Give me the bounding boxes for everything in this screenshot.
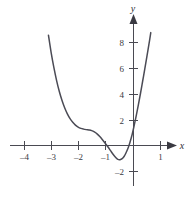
polynomial-curve (48, 33, 150, 160)
x-ticklabel-neg1: –1 (100, 152, 110, 162)
y-ticklabel-2: 2 (120, 116, 125, 126)
x-ticklabel-neg2: –2 (73, 152, 83, 162)
y-ticklabel-neg2: –2 (114, 167, 124, 177)
graph-figure: –4 –3 –2 –1 1 8 6 4 2 –2 x y (0, 0, 192, 200)
y-axis-arrow-icon (130, 14, 138, 24)
x-ticklabel-pos1: 1 (158, 152, 163, 162)
x-ticklabel-neg3: –3 (46, 152, 57, 162)
coordinate-plot: –4 –3 –2 –1 1 8 6 4 2 –2 x y (0, 0, 192, 200)
x-axis-label: x (179, 140, 185, 151)
y-ticklabel-4: 4 (120, 90, 125, 100)
x-ticklabel-neg4: –4 (19, 152, 30, 162)
y-ticklabel-8: 8 (120, 38, 125, 48)
y-ticklabel-6: 6 (120, 64, 125, 74)
y-axis-label: y (130, 3, 136, 14)
x-axis-arrow-icon (167, 142, 177, 150)
